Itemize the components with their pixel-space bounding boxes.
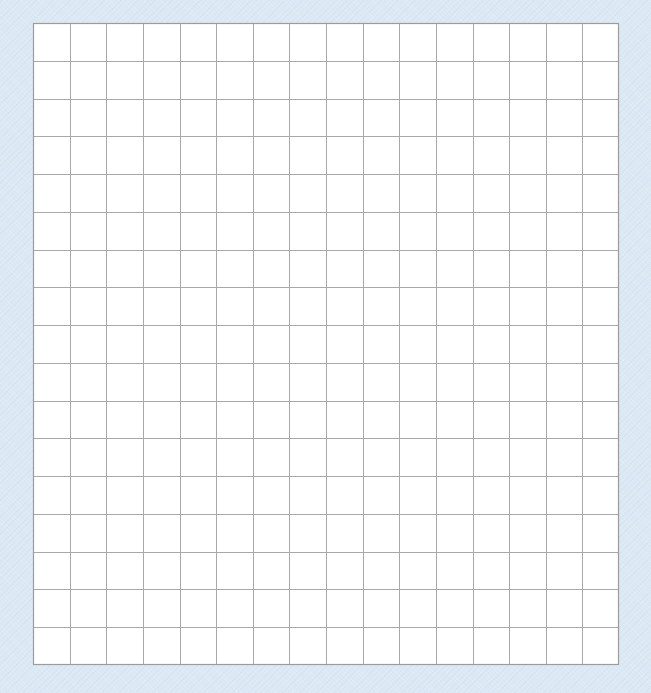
grid-lines — [33, 23, 619, 665]
graph-paper-grid — [33, 23, 619, 665]
